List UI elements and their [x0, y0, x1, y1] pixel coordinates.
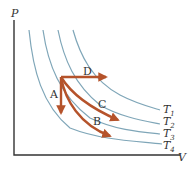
process-label-c: C — [98, 98, 106, 111]
isotherm-labels: T1 T2 T3 T4 — [163, 103, 175, 154]
process-label-a: A — [49, 88, 59, 101]
process-label-d: D — [83, 65, 92, 78]
process-label-b: B — [93, 115, 101, 128]
axes: P V — [10, 7, 187, 164]
pv-diagram: P V T1 T2 T3 T4 A B C D — [0, 0, 195, 171]
x-axis-label: V — [178, 151, 187, 164]
axis-lines — [14, 20, 180, 155]
y-axis-label: P — [10, 7, 19, 20]
